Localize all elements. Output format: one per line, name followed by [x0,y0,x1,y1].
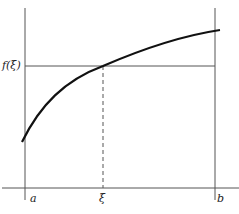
x-label-xi: ξ [99,193,105,204]
diagram-canvas [0,0,239,214]
x-label-b: b [217,193,224,204]
x-label-a: a [30,193,37,204]
function-curve [22,30,220,142]
y-label-f-xi: f(ξ) [2,60,21,71]
diagram: f(ξ) a ξ b [0,0,239,214]
